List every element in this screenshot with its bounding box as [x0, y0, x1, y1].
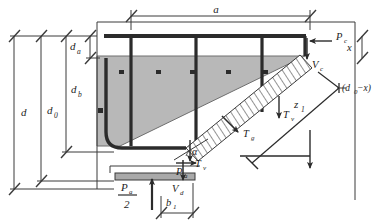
- dim-da-label-group: d a: [70, 40, 81, 56]
- vd-label-sub: d: [180, 189, 184, 197]
- dim-b1-label-group: b 1: [166, 197, 177, 211]
- dim-d0x-label-tail: −x): [357, 83, 371, 94]
- tg-label-sub: g: [251, 134, 255, 142]
- shaded-region: [97, 56, 305, 146]
- z1-leader-upper: [318, 72, 339, 88]
- dim-d-label: d: [21, 106, 27, 118]
- tv-lower-label-sub: v: [203, 164, 207, 172]
- force-pa-half-label-group: P a 2: [118, 181, 137, 210]
- dim-b1-label-sub: 1: [173, 203, 177, 211]
- strut-and-tie-diagram: a d d 0 d b d a: [0, 0, 376, 224]
- dimension-a: [126, 10, 316, 30]
- bar-dot-5: [263, 70, 268, 74]
- dim-da-label-sub: a: [77, 47, 81, 56]
- dim-d0-label-sub: 0: [54, 111, 58, 120]
- pc-label: P: [335, 31, 343, 42]
- bar-dot-3: [190, 70, 195, 74]
- vd-label: V: [172, 183, 180, 194]
- force-tv-lower-label-group: T v: [195, 158, 207, 172]
- pa-half-denominator: 2: [124, 198, 130, 210]
- dim-db-label-group: d b: [71, 83, 82, 99]
- dim-db-label-sub: b: [78, 90, 82, 99]
- z1-label: z: [293, 98, 299, 110]
- dim-d0x-label: (d: [342, 83, 350, 94]
- force-vd-label-group: V d: [172, 183, 184, 197]
- bar-dot-4: [226, 70, 231, 74]
- bar-dot-6: [98, 108, 103, 113]
- pa-side-label-sub: a: [184, 172, 188, 180]
- force-tv-upper-label-group: T v: [283, 109, 295, 123]
- vc-label: V: [312, 59, 320, 70]
- vc-label-sub: c: [320, 65, 324, 73]
- pa-half-numerator: P: [120, 181, 128, 193]
- dim-da-label: d: [70, 40, 76, 52]
- dim-db-label: d: [71, 83, 77, 95]
- tg-label: T: [243, 128, 250, 139]
- force-tg-label-group: T g: [243, 128, 255, 142]
- dim-d0x-label-group: (d 0 −x): [342, 83, 371, 95]
- tv-lower-label: T: [195, 158, 202, 169]
- z1-label-group: z 1: [293, 98, 305, 114]
- bar-dot-1: [119, 70, 124, 74]
- z1-label-sub: 1: [301, 105, 305, 114]
- figure-canvas: a d d 0 d b d a: [0, 0, 376, 224]
- dim-d0-label: d: [47, 104, 53, 116]
- concrete-body: [97, 56, 305, 146]
- tv-upper-label-sub: v: [291, 115, 295, 123]
- tv-upper-label: T: [283, 109, 290, 120]
- dim-a-label: a: [213, 3, 219, 15]
- pa-side-label: P: [175, 166, 183, 177]
- force-pc-label-group: P c: [335, 31, 348, 45]
- force-vc-label-group: V c: [312, 59, 324, 73]
- alpha-label: α: [192, 146, 198, 157]
- dim-d0-label-group: d 0: [47, 104, 58, 120]
- dim-b1-label: b: [166, 197, 171, 208]
- bar-dot-2: [156, 70, 161, 74]
